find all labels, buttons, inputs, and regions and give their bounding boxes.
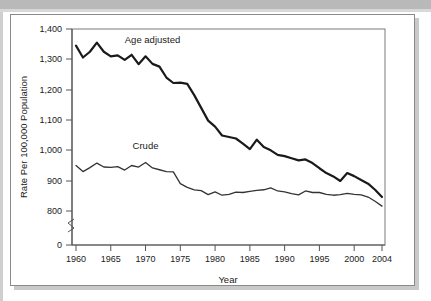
- y-axis-ticks: [66, 29, 72, 245]
- x-tick-label: 1960: [66, 254, 86, 264]
- x-tick-label: 1995: [309, 254, 329, 264]
- x-axis-title: Year: [218, 274, 237, 285]
- y-tick-label: 1,100: [39, 115, 62, 125]
- y-axis-tick-labels: 1,400 1,300 1,200 1,100 1,000 900 800 0: [39, 24, 62, 250]
- x-tick-label: 1985: [240, 254, 260, 264]
- x-tick-label: 1965: [101, 254, 121, 264]
- line-chart: 1,400 1,300 1,200 1,100 1,000 900 800 0 …: [0, 0, 431, 301]
- x-tick-label: 1975: [170, 254, 190, 264]
- x-axis-ticks: [76, 245, 382, 251]
- x-tick-label: 1970: [136, 254, 156, 264]
- figure-root: 1,400 1,300 1,200 1,100 1,000 900 800 0 …: [0, 0, 431, 301]
- x-tick-label: 1980: [205, 254, 225, 264]
- series-label-age-adjusted: Age adjusted: [125, 34, 180, 45]
- y-tick-label: 0: [57, 240, 62, 250]
- x-tick-label: 1990: [275, 254, 295, 264]
- series-label-crude: Crude: [133, 140, 159, 151]
- y-axis-title: Rate Per 100,000 Population: [18, 76, 29, 198]
- x-axis-tick-labels: 1960196519701975198019851990199520002004: [66, 254, 392, 264]
- y-tick-label: 1,000: [39, 145, 62, 155]
- x-tick-label: 2004: [372, 254, 392, 264]
- y-tick-label: 900: [47, 176, 62, 186]
- y-tick-label: 1,200: [39, 85, 62, 95]
- y-tick-label: 1,400: [39, 24, 62, 34]
- y-tick-label: 800: [47, 206, 62, 216]
- y-tick-label: 1,300: [39, 54, 62, 64]
- x-tick-label: 2000: [344, 254, 364, 264]
